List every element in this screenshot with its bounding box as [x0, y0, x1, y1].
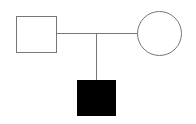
father-node	[17, 17, 57, 53]
mother-node	[138, 12, 182, 56]
pedigree-diagram	[0, 0, 196, 124]
affected-child-node	[77, 80, 116, 116]
